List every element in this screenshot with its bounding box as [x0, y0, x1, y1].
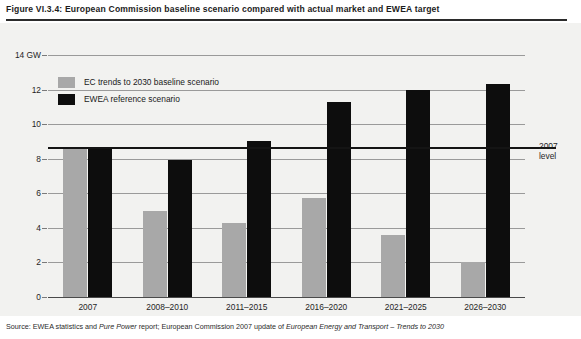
y-axis-label-2: 2	[36, 257, 41, 267]
x-axis-line	[48, 297, 525, 298]
bar-ewea	[486, 84, 510, 297]
bar-group	[128, 55, 208, 297]
y-tick-mark-4	[42, 228, 47, 229]
bar-ewea	[327, 102, 351, 297]
y-tick-mark-14	[42, 55, 47, 56]
bar-group	[287, 55, 367, 297]
plot-area: 02468101214 GW 2007 level	[48, 55, 525, 297]
y-axis-label-6: 6	[36, 188, 41, 198]
bar-ec	[302, 198, 326, 297]
bar-group	[366, 55, 446, 297]
y-axis-label-10: 10	[32, 119, 41, 129]
bar-ewea	[168, 160, 192, 297]
bar-ec	[222, 223, 246, 297]
reference-line-2007-level	[48, 147, 556, 149]
y-tick-mark-12	[42, 90, 47, 91]
figure-caption: Figure VI.3.4: European Commission basel…	[6, 4, 440, 14]
bar-ec	[63, 147, 87, 297]
bar-series-container	[48, 55, 525, 297]
bar-ec	[143, 211, 167, 297]
y-axis-label-0: 0	[36, 292, 41, 302]
y-tick-mark-8	[42, 159, 47, 160]
bar-group	[48, 55, 128, 297]
bar-group	[207, 55, 287, 297]
x-axis-label: 2007	[78, 302, 97, 312]
bar-ec	[381, 235, 405, 297]
reference-line-label-line1: 2007	[539, 141, 558, 152]
y-tick-mark-6	[42, 193, 47, 194]
y-axis-label-4: 4	[36, 223, 41, 233]
y-tick-mark-10	[42, 124, 47, 125]
caption-divider	[6, 19, 567, 21]
reference-line-label: 2007 level	[539, 141, 558, 162]
bar-ewea	[406, 90, 430, 297]
bar-ewea	[88, 147, 112, 297]
y-axis-label-14: 14 GW	[15, 50, 41, 60]
chart-panel: EC trends to 2030 baseline scenario EWEA…	[0, 23, 581, 316]
x-axis-label: 2011–2015	[226, 302, 267, 312]
bar-ec	[461, 262, 485, 297]
y-axis-label-8: 8	[36, 154, 41, 164]
bar-group	[446, 55, 526, 297]
bar-ewea	[247, 141, 271, 297]
x-axis-label: 2008–2010	[146, 302, 188, 312]
x-axis-label: 2016–2020	[305, 302, 347, 312]
x-axis-label: 2026–2030	[464, 302, 506, 312]
y-tick-mark-0	[42, 297, 47, 298]
y-axis-label-12: 12	[32, 85, 41, 95]
x-axis-label: 2021–2025	[385, 302, 427, 312]
source-note: Source: EWEA statistics and Pure Power r…	[6, 322, 444, 331]
y-tick-mark-2	[42, 262, 47, 263]
reference-line-label-line2: level	[539, 151, 558, 162]
